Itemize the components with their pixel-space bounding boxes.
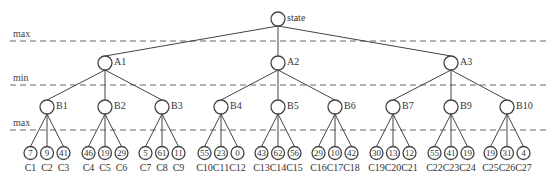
leaf-label-C24: C24 [458, 162, 478, 173]
node-B1 [40, 100, 54, 114]
node-A1 [98, 56, 112, 70]
edge [278, 70, 335, 100]
leaf-label-C15: C15 [285, 162, 305, 173]
leaf-value-C3: 41 [57, 146, 71, 160]
node-label-B1: B1 [56, 100, 68, 111]
node-A2 [271, 56, 285, 70]
leaf-value-C27: 4 [517, 146, 531, 160]
node-label-B4: B4 [230, 100, 242, 111]
leaf-value-C23: 41 [444, 146, 458, 160]
node-label-B2: B2 [114, 100, 126, 111]
edge [221, 70, 278, 100]
leaf-value-C17: 10 [328, 146, 342, 160]
leaf-value-C19: 30 [370, 146, 384, 160]
node-B4 [214, 100, 228, 114]
leaf-label-C27: C27 [514, 162, 534, 173]
edge [451, 70, 507, 100]
leaf-value-C9: 11 [172, 146, 186, 160]
node-label-B5: B5 [287, 100, 299, 111]
leaf-label-C21: C21 [400, 162, 420, 173]
node-label-A2: A2 [287, 56, 299, 67]
leaf-label-C3: C3 [54, 162, 74, 173]
edge [105, 114, 122, 147]
leaf-value-C20: 13 [386, 146, 400, 160]
leaf-value-C2: 9 [40, 146, 54, 160]
node-label-A3: A3 [460, 56, 472, 67]
edge [435, 114, 452, 147]
level-label-min: min [13, 72, 29, 83]
leaf-label-C6: C6 [112, 162, 132, 173]
leaf-value-C24: 19 [461, 146, 475, 160]
node-label-A1: A1 [114, 56, 126, 67]
node-B2 [98, 100, 112, 114]
leaf-value-C12: 0 [231, 146, 245, 160]
leaf-label-C12: C12 [228, 162, 248, 173]
level-label-max: max [13, 117, 30, 128]
leaf-value-C4: 46 [82, 146, 96, 160]
level-label-max: max [13, 28, 30, 39]
node-label-B7: B7 [402, 100, 414, 111]
node-B9 [444, 100, 458, 114]
leaf-value-C21: 12 [403, 146, 417, 160]
leaf-value-C25: 19 [484, 146, 498, 160]
leaf-value-C6: 29 [115, 146, 129, 160]
leaf-value-C8: 61 [155, 146, 169, 160]
node-label-B6: B6 [344, 100, 356, 111]
node-label-state: state [287, 12, 305, 23]
leaf-value-C16: 29 [312, 146, 326, 160]
node-B5 [271, 100, 285, 114]
leaf-value-C15: 56 [288, 146, 302, 160]
node-A3 [444, 56, 458, 70]
leaf-value-C18: 42 [345, 146, 359, 160]
leaf-value-C26: 31 [500, 146, 514, 160]
node-label-B9: B9 [460, 100, 472, 111]
leaf-value-C11: 23 [214, 146, 228, 160]
leaf-value-C1: 7 [24, 146, 38, 160]
edge [335, 114, 352, 147]
leaf-label-C18: C18 [342, 162, 362, 173]
node-B7 [386, 100, 400, 114]
leaf-label-C9: C9 [169, 162, 189, 173]
leaf-value-C13: 43 [255, 146, 269, 160]
edge [146, 114, 163, 147]
node-B6 [328, 100, 342, 114]
node-label-B3: B3 [171, 100, 183, 111]
leaf-value-C22: 55 [428, 146, 442, 160]
node-B3 [155, 100, 169, 114]
node-label-B10: B10 [516, 100, 533, 111]
node-B10 [500, 100, 514, 114]
edge [205, 114, 222, 147]
node-state [271, 12, 285, 26]
leaf-value-C7: 5 [139, 146, 153, 160]
leaf-value-C5: 19 [98, 146, 112, 160]
leaf-value-C10: 55 [198, 146, 212, 160]
leaf-value-C14: 62 [271, 146, 285, 160]
